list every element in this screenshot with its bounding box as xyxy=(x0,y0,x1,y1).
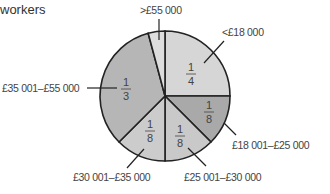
label-under-18000: <£18 000 xyxy=(222,26,264,38)
label-35001-55000: £35 001–£55 000 xyxy=(2,82,80,94)
label-30001-35000: £30 001–£35 000 xyxy=(73,171,151,183)
pie-chart: 1 4 1 8 1 8 1 8 1 3 >£55 000 <£18 000 £3… xyxy=(0,0,330,194)
svg-text:8: 8 xyxy=(147,132,153,144)
svg-text:1: 1 xyxy=(188,61,194,73)
svg-text:1: 1 xyxy=(206,99,212,111)
svg-text:1: 1 xyxy=(177,123,183,135)
slice-under-18000 xyxy=(165,31,230,96)
svg-text:1: 1 xyxy=(147,118,153,130)
svg-text:8: 8 xyxy=(206,113,212,125)
label-18001-25000: £18 001–£25 000 xyxy=(232,139,310,151)
label-25001-30000: £25 001–£30 000 xyxy=(184,171,262,183)
svg-text:8: 8 xyxy=(177,137,183,149)
svg-text:4: 4 xyxy=(188,75,194,87)
label-over-55000: >£55 000 xyxy=(140,4,182,16)
svg-text:1: 1 xyxy=(123,76,129,88)
leader-18001-25000 xyxy=(224,123,236,135)
svg-text:3: 3 xyxy=(123,90,129,102)
